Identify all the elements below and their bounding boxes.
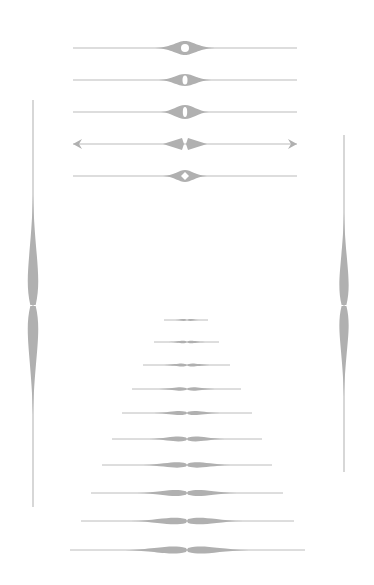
vertical-left bbox=[28, 100, 38, 507]
stacked-divider-3 bbox=[143, 364, 230, 367]
circle-hole-icon bbox=[181, 44, 189, 52]
stacked-divider-8 bbox=[91, 490, 283, 496]
oval-hole-icon bbox=[183, 107, 187, 117]
stacked-divider-9 bbox=[81, 518, 294, 525]
divider-oval bbox=[73, 74, 297, 86]
stacked-divider-10 bbox=[70, 546, 305, 553]
horizontal-divider-group bbox=[73, 41, 297, 182]
oval-hole-icon bbox=[183, 76, 188, 85]
divider-arrows bbox=[73, 138, 297, 150]
divider-circle bbox=[73, 41, 297, 55]
stacked-divider-2 bbox=[154, 341, 219, 343]
stacked-divider-4 bbox=[132, 387, 241, 391]
stacked-divider-1 bbox=[164, 319, 208, 321]
ornamental-dividers-canvas bbox=[0, 0, 374, 585]
divider-diamond-hole bbox=[73, 170, 297, 182]
divider-oval-wide bbox=[73, 105, 297, 119]
stacked-divider-group bbox=[70, 319, 305, 553]
vertical-divider-group bbox=[28, 100, 349, 507]
vertical-right bbox=[339, 135, 348, 472]
stacked-divider-7 bbox=[102, 462, 272, 467]
stacked-divider-5 bbox=[122, 411, 252, 415]
stacked-divider-6 bbox=[112, 437, 262, 442]
